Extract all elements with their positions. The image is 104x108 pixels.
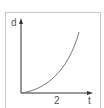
y-axis-arrow-icon [19, 18, 23, 24]
d-t-curve [21, 32, 79, 93]
x-tick-label: 2 [54, 95, 60, 106]
distance-time-graph: d 2 t [0, 0, 104, 108]
y-axis-label: d [11, 17, 17, 28]
x-axis-label: t [88, 95, 91, 106]
